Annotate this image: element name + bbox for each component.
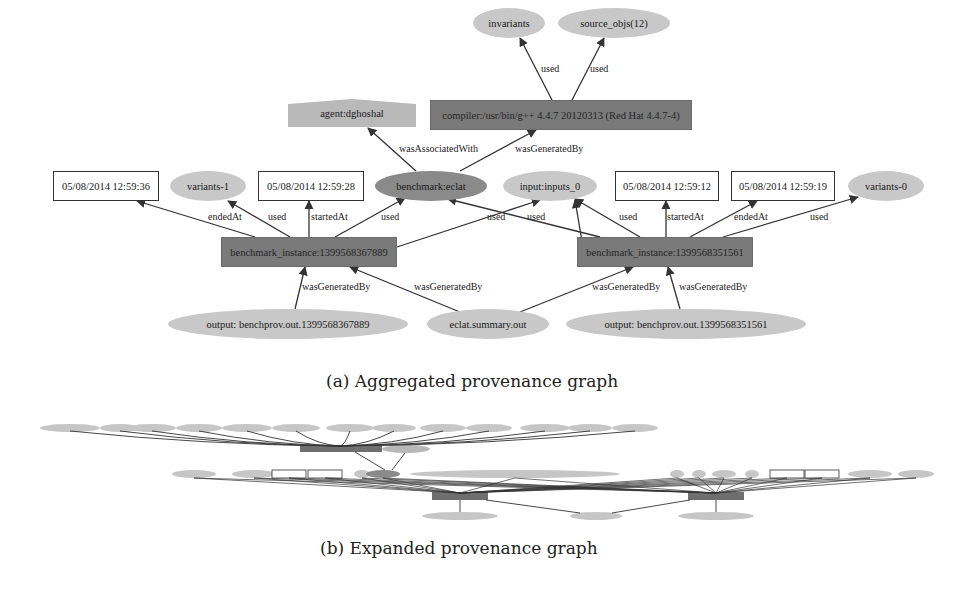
expanded-output <box>678 512 754 520</box>
expanded-node <box>712 470 736 478</box>
expanded-node <box>176 424 222 432</box>
expanded-node <box>420 424 466 432</box>
expanded-node <box>128 424 176 432</box>
expanded-edge <box>340 431 635 446</box>
expanded-node <box>222 424 272 432</box>
expanded-edge <box>296 431 340 446</box>
expanded-timestamp <box>308 470 342 478</box>
expanded-output <box>422 512 498 520</box>
expanded-instance <box>688 492 744 500</box>
expanded-timestamp <box>770 470 804 478</box>
expanded-node <box>612 424 658 432</box>
expanded-agent <box>382 445 430 453</box>
expanded-node <box>568 424 612 432</box>
expanded-node <box>272 424 320 432</box>
expanded-node <box>326 424 374 432</box>
expanded-node <box>232 470 276 478</box>
expanded-instance <box>432 492 488 500</box>
expanded-node <box>410 470 620 478</box>
expanded-node <box>745 470 759 478</box>
expanded-node <box>848 470 892 478</box>
expanded-node <box>898 470 934 478</box>
expanded-node <box>40 424 100 432</box>
expanded-edge <box>340 431 350 446</box>
expanded-node <box>466 424 512 432</box>
expanded-node <box>172 470 216 478</box>
expanded-node <box>520 424 570 432</box>
paper-page: invariantssource_objs(12)agent:dghoshalc… <box>0 0 970 589</box>
expanded-output <box>570 512 622 520</box>
expanded-timestamp <box>272 470 306 478</box>
expanded-node <box>366 470 400 478</box>
expanded-node <box>372 424 416 432</box>
expanded-timestamp <box>805 470 839 478</box>
expanded-node <box>692 470 706 478</box>
graph-b-expanded <box>0 0 970 589</box>
expanded-node <box>670 470 684 478</box>
figure-b-caption: (b) Expanded provenance graph <box>320 538 598 558</box>
